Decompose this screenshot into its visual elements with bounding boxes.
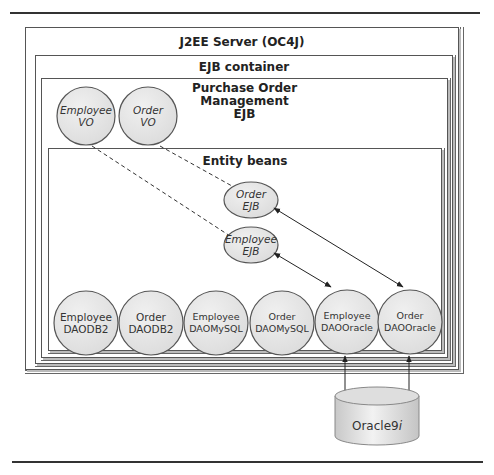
diagram-shapes bbox=[0, 0, 494, 475]
employee-vo-node bbox=[57, 87, 115, 145]
employee-vo-to-ejb-dashed-line bbox=[92, 146, 230, 236]
employee-daooracle-node bbox=[315, 290, 379, 354]
order-vo-node bbox=[119, 87, 177, 145]
order-daooracle-node bbox=[378, 290, 442, 354]
employee-daomysql-node bbox=[184, 291, 248, 355]
order-vo-to-ejb-dashed-line bbox=[160, 146, 232, 186]
oracle9i-database-cylinder bbox=[335, 387, 419, 445]
employee-daodb2-node bbox=[54, 291, 118, 355]
employee-ejb-node bbox=[224, 227, 278, 263]
employee-ejb-to-employee-daooracle-arrow bbox=[274, 253, 331, 287]
order-daomysql-node bbox=[250, 291, 314, 355]
order-daodb2-node bbox=[119, 291, 183, 355]
order-ejb-node bbox=[224, 182, 278, 218]
order-ejb-to-order-daooracle-arrow bbox=[274, 208, 403, 287]
